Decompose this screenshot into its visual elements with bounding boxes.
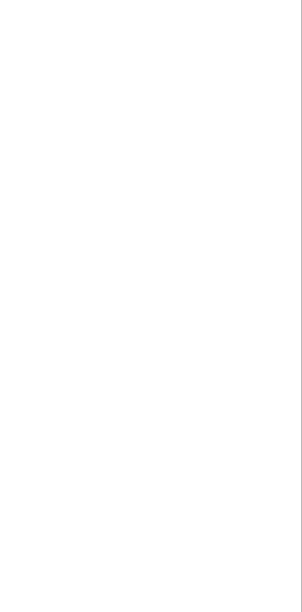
x-axis xyxy=(0,30,302,52)
chart-figure xyxy=(0,0,302,612)
right-edge-rule xyxy=(301,0,302,612)
legend xyxy=(0,545,302,574)
legend-items xyxy=(25,550,302,574)
plot-area xyxy=(0,30,302,540)
